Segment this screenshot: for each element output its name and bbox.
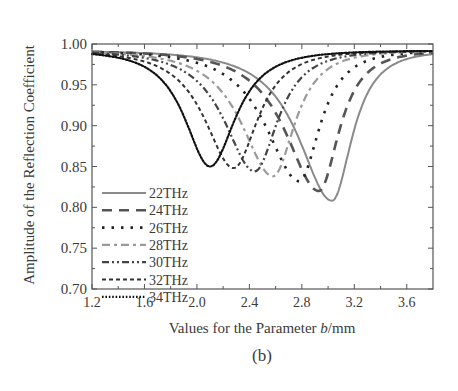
y-tick-label: 1.00 (61, 36, 87, 52)
legend-label: 30THz (149, 255, 188, 270)
curve-28THz (92, 51, 433, 176)
curve-34THz (92, 51, 433, 167)
y-tick-label: 0.85 (61, 159, 87, 175)
x-tick-label: 1.2 (83, 295, 101, 310)
legend-label: 26THz (149, 221, 188, 236)
legend-label: 28THz (149, 238, 188, 253)
y-tick-label: 0.75 (61, 240, 87, 256)
x-tick-label: 3.2 (346, 295, 364, 310)
legend-label: 24THz (149, 203, 188, 218)
curve-22THz (92, 52, 433, 201)
plot-frame (92, 44, 433, 289)
x-axis-label: Values for the Parameter b/mm (169, 320, 356, 336)
y-tick-label: 0.95 (61, 77, 87, 93)
y-axis-label: Amplitude of the Reflection Coefficient (21, 44, 37, 284)
subfigure-label: (b) (252, 346, 272, 365)
x-tick-label: 2.8 (293, 295, 311, 310)
curve-32THz (92, 51, 433, 168)
x-tick-label: 2.4 (241, 295, 259, 310)
plot-curves (92, 51, 433, 201)
reflection-coefficient-chart: 1.21.62.02.42.83.23.6 0.700.750.800.850.… (0, 0, 458, 391)
legend-label: 32THz (149, 273, 188, 288)
curve-26THz (92, 52, 433, 181)
y-tick-label: 0.80 (61, 199, 87, 215)
legend-label: 34THz (149, 290, 188, 305)
x-tick-label: 3.6 (398, 295, 416, 310)
x-axis-ticks: 1.21.62.02.42.83.23.6 (83, 44, 415, 310)
y-tick-label: 0.90 (61, 118, 87, 134)
figure: 1.21.62.02.42.83.23.6 0.700.750.800.850.… (0, 0, 458, 391)
curve-30THz (92, 51, 433, 171)
legend-label: 22THz (149, 186, 188, 201)
y-tick-label: 0.70 (61, 281, 87, 297)
x-tick-label: 2.0 (188, 295, 206, 310)
